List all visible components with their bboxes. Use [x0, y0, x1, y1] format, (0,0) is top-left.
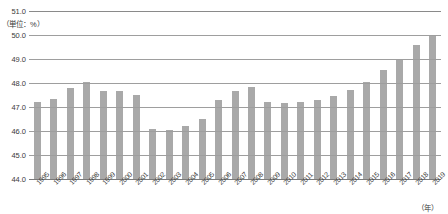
bar: [248, 87, 255, 179]
plot-area: [29, 11, 441, 179]
x-axis: （年） 199519961997199819992000200120022003…: [29, 181, 441, 214]
y-axis-tick-label: 49.0: [0, 55, 26, 64]
bar-chart: （単位：%） 51.050.049.048.047.046.045.044.0 …: [0, 0, 448, 214]
gridline-45.0: [29, 155, 441, 156]
gridline-48.0: [29, 83, 441, 84]
y-axis-tick-label: 50.0: [0, 31, 26, 40]
bar: [264, 102, 271, 179]
gridline-50.0: [29, 35, 441, 36]
bar: [215, 100, 222, 179]
bar: [347, 90, 354, 179]
bar: [182, 126, 189, 179]
bar: [380, 70, 387, 179]
y-axis-tick-label: 47.0: [0, 103, 26, 112]
bar: [396, 59, 403, 179]
bar: [314, 100, 321, 179]
gridline-51.0: [29, 11, 441, 12]
bar: [67, 88, 74, 179]
bar: [297, 102, 304, 179]
y-axis-tick-label: 44.0: [0, 175, 26, 184]
bars-group: [29, 11, 441, 179]
y-axis-tick-label: 45.0: [0, 151, 26, 160]
bar: [281, 103, 288, 179]
bar: [149, 129, 156, 179]
bar: [199, 119, 206, 179]
gridline-46.0: [29, 131, 441, 132]
gridline-49.0: [29, 59, 441, 60]
bar: [413, 45, 420, 179]
bar: [330, 96, 337, 179]
bar: [116, 91, 123, 179]
x-axis-unit-label: （年）: [417, 202, 438, 213]
bar: [100, 91, 107, 179]
y-axis-tick-label: 46.0: [0, 127, 26, 136]
bar: [50, 99, 57, 179]
gridline-47.0: [29, 107, 441, 108]
bar: [34, 102, 41, 179]
y-axis-tick-label: 48.0: [0, 79, 26, 88]
bar: [232, 91, 239, 179]
y-axis-tick-label: 51.0: [0, 7, 26, 16]
